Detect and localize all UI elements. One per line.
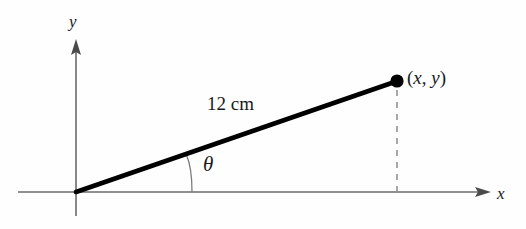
point-comma: , [422,67,432,88]
point-close-paren: ) [440,67,446,88]
figure-container: y x 12 cm θ (x, y) [0,0,526,229]
angle-arc [187,155,193,192]
terminal-point-label: (x, y) [407,68,446,87]
figure-canvas [0,0,526,229]
angle-theta-label: θ [203,154,213,175]
x-axis-label: x [497,185,505,202]
y-axis-label: y [69,13,77,30]
terminal-point-dot [390,74,403,87]
segment-length-label: 12 cm [207,94,254,113]
point-y-var: y [431,67,439,88]
point-x-var: x [413,67,421,88]
